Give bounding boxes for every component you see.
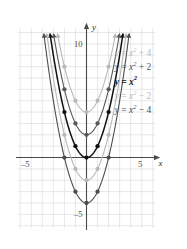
y-axis-name: y <box>91 22 96 32</box>
data-point <box>106 64 110 68</box>
data-point <box>73 121 77 125</box>
curve-arrowhead <box>56 33 61 38</box>
data-point <box>84 133 88 137</box>
x-axis-name: x <box>158 158 163 168</box>
data-point <box>84 178 88 182</box>
y-tick-label: 10 <box>74 39 83 49</box>
y-tick-label: –5 <box>73 209 83 219</box>
curve-label: y = x2 + 2 <box>114 60 152 72</box>
data-point <box>62 155 66 159</box>
data-point <box>62 87 66 91</box>
data-point <box>95 99 99 103</box>
x-tick-label: 5 <box>138 159 142 169</box>
curve-label: y = x2 <box>114 75 138 87</box>
curve-equation-labels: y = x2 + 4y = x2 + 2y = x2y = x2 − 2y = … <box>114 46 152 115</box>
curve-label: y = x2 − 2 <box>114 90 152 102</box>
data-point <box>62 133 66 137</box>
data-point <box>106 87 110 91</box>
curve-label: y = x2 + 4 <box>114 46 152 58</box>
coordinate-plane: yx–5510–5 y = x2 + 4y = x2 + 2y = x2y = … <box>0 0 187 249</box>
data-point <box>95 189 99 193</box>
data-point <box>84 155 88 159</box>
graph-figure: yx–5510–5 y = x2 + 4y = x2 + 2y = x2y = … <box>0 0 187 249</box>
data-point <box>73 189 77 193</box>
data-point <box>106 110 110 114</box>
data-point <box>106 155 110 159</box>
curve-arrowhead <box>112 33 117 38</box>
data-point <box>84 110 88 114</box>
data-point <box>73 144 77 148</box>
data-point <box>84 201 88 205</box>
data-point <box>73 99 77 103</box>
axis-arrowhead <box>84 23 89 29</box>
data-point <box>62 110 66 114</box>
x-tick-label: –5 <box>20 159 30 169</box>
data-point <box>62 64 66 68</box>
data-point <box>106 133 110 137</box>
data-point <box>95 121 99 125</box>
curve-label: y = x2 − 4 <box>114 103 152 115</box>
data-point <box>95 144 99 148</box>
data-point <box>95 167 99 171</box>
data-point <box>73 167 77 171</box>
